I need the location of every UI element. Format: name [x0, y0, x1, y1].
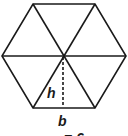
hexagon-diagram: h b = 6 [0, 0, 128, 136]
height-label: h [47, 85, 56, 101]
partial-bottom-text: = 6 [64, 130, 84, 136]
base-label: b [58, 113, 67, 129]
